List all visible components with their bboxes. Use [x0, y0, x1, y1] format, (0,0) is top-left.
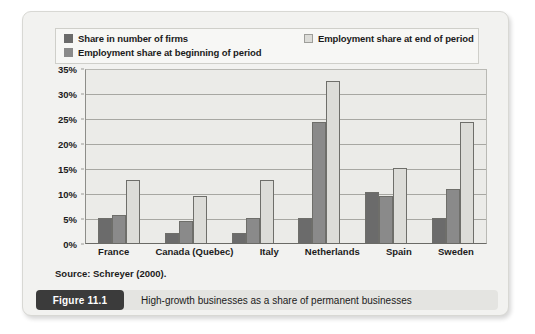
- bar-group-spain: [365, 70, 407, 243]
- legend-swatch-icon: [64, 34, 73, 43]
- figure-number-label: Figure 11.1: [53, 295, 107, 306]
- bar: [98, 218, 112, 243]
- source-note: Source: Schreyer (2000).: [55, 268, 166, 279]
- bar: [446, 189, 460, 243]
- bar: [193, 196, 207, 243]
- y-axis-tick-mark: [81, 244, 84, 245]
- figure-card: Share in number of firms Employment shar…: [22, 11, 509, 316]
- bar: [393, 168, 407, 243]
- bar: [365, 192, 379, 243]
- bar: [112, 215, 126, 243]
- y-axis: 0%5%10%15%20%25%30%35%: [49, 69, 81, 244]
- bar-group-france: [98, 70, 140, 243]
- bar: [260, 180, 274, 243]
- figure-caption-text: High-growth businesses as a share of per…: [141, 290, 412, 310]
- bar: [460, 122, 474, 243]
- legend-item-employment-share-beginning: Employment share at beginning of period: [64, 47, 261, 58]
- legend-swatch-icon: [304, 34, 313, 43]
- bar: [298, 218, 312, 243]
- legend-item-share-in-number-of-firms: Share in number of firms: [64, 33, 188, 44]
- y-axis-tick-label: 30%: [58, 89, 77, 100]
- y-axis-tick-mark: [81, 144, 84, 145]
- figure-caption-bar: Figure 11.1 High-growth businesses as a …: [36, 290, 498, 310]
- bar-group-sweden: [432, 70, 474, 243]
- x-axis-label: Italy: [260, 246, 279, 257]
- y-axis-tick-label: 10%: [58, 189, 77, 200]
- y-axis-tick-label: 15%: [58, 164, 77, 175]
- x-axis-label: Canada (Quebec): [155, 246, 233, 257]
- x-axis-label: Sweden: [438, 246, 474, 257]
- bar: [326, 81, 340, 243]
- bar: [179, 221, 193, 243]
- bar-group-netherlands: [298, 70, 340, 243]
- bar: [246, 218, 260, 243]
- y-axis-tick-mark: [81, 194, 84, 195]
- chart-legend: Share in number of firms Employment shar…: [55, 28, 479, 64]
- bars-layer: [86, 70, 486, 243]
- plot-area: [85, 69, 487, 244]
- y-axis-tick-mark: [81, 119, 84, 120]
- legend-label: Employment share at beginning of period: [78, 47, 261, 58]
- legend-item-employment-share-end: Employment share at end of period: [304, 33, 474, 44]
- y-axis-tick-mark: [81, 219, 84, 220]
- chart-plot-region: 0%5%10%15%20%25%30%35%: [49, 69, 487, 244]
- y-axis-tick-mark: [81, 94, 84, 95]
- y-axis-tick-label: 35%: [58, 64, 77, 75]
- bar: [232, 233, 246, 243]
- y-axis-tick-mark: [81, 169, 84, 170]
- legend-label: Employment share at end of period: [318, 33, 474, 44]
- y-axis-tick-mark: [81, 69, 84, 70]
- legend-label: Share in number of firms: [78, 33, 188, 44]
- bar: [379, 196, 393, 243]
- legend-swatch-icon: [64, 48, 73, 57]
- bar: [312, 122, 326, 243]
- x-axis-label: Spain: [386, 246, 412, 257]
- y-axis-tick-label: 5%: [63, 214, 77, 225]
- bar: [432, 218, 446, 243]
- bar: [165, 233, 179, 243]
- bar-group-canada-quebec: [165, 70, 207, 243]
- y-axis-tick-label: 25%: [58, 114, 77, 125]
- y-axis-tick-label: 0%: [63, 239, 77, 250]
- x-axis-labels: FranceCanada (Quebec)ItalyNetherlandsSpa…: [85, 246, 487, 257]
- y-axis-tick-label: 20%: [58, 139, 77, 150]
- x-axis-label: Netherlands: [305, 246, 360, 257]
- figure-number-badge: Figure 11.1: [36, 290, 124, 310]
- x-axis-label: France: [98, 246, 129, 257]
- bar-group-italy: [232, 70, 274, 243]
- bar: [126, 180, 140, 243]
